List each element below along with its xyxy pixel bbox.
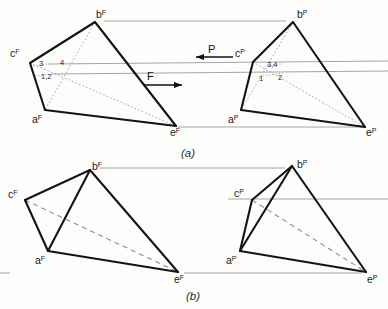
point-label-3-4: 3,4: [267, 60, 277, 69]
edge-c-a: [240, 200, 252, 251]
panel-b-profile-visible-edges: [240, 166, 366, 272]
caption-part-a: (a): [181, 147, 195, 159]
vertex-label-cF: cF: [10, 47, 20, 59]
panel-b-profile-vertex-labels: bP cP aP eP: [226, 158, 378, 285]
point-label-1: 1: [259, 74, 263, 83]
edge-a-e: [240, 251, 366, 272]
edge-a-e: [45, 110, 176, 126]
edge-b-a-hidden: [45, 22, 95, 110]
panel-a-profile-number-labels: 3,4 1 2: [259, 60, 282, 83]
edge-c-b: [25, 170, 90, 200]
projector-line-upper: [48, 61, 388, 64]
vertex-label-aF: aF: [32, 113, 42, 125]
vertex-label-eF: eF: [170, 126, 180, 138]
vertex-label-aP: aP: [226, 254, 237, 266]
vertex-label-cP: cP: [235, 47, 245, 59]
vertex-label-cF: cF: [8, 188, 18, 200]
vertex-label-eP: eP: [366, 126, 377, 138]
force-label-f: F: [147, 70, 154, 82]
edge-c-a: [241, 62, 253, 110]
vertex-label-bP: bP: [297, 158, 308, 170]
vertex-label-aF: aF: [35, 254, 45, 266]
panel-b-front-view: [25, 170, 178, 272]
edge-b-e: [90, 170, 178, 272]
edge-c-a: [25, 200, 48, 251]
vertex-label-bP: bP: [297, 8, 308, 20]
edge-b-a: [240, 166, 292, 251]
panel-b-profile-hidden-edges: [252, 200, 366, 272]
figure-canvas: F P bF cF aF eF 3 4: [0, 0, 388, 309]
panel-b-front-hidden-edges: [25, 200, 178, 272]
panel-b-profile-view: [240, 166, 366, 272]
vertex-label-bF: bF: [96, 8, 106, 20]
force-label-p: P: [208, 43, 215, 55]
point-label-1-2: 1,2: [41, 72, 51, 81]
edge-c-e-hidden: [25, 200, 178, 272]
edge-b-e: [293, 22, 365, 127]
force-arrow-f: [143, 82, 182, 88]
vertex-label-bF: bF: [92, 160, 102, 172]
descriptive-geometry-figure: F P bF cF aF eF 3 4: [0, 0, 388, 309]
edge-b-e: [95, 22, 176, 126]
caption-part-b: (b): [186, 290, 200, 302]
arrow-p-head: [196, 54, 204, 60]
edge-a-e: [48, 251, 178, 272]
edge-a-e: [241, 110, 365, 127]
edge-b-a: [48, 170, 90, 251]
point-label-2: 2: [278, 73, 282, 82]
point-label-3: 3: [39, 59, 43, 68]
edge-c-a: [30, 63, 45, 110]
arrow-f-head: [174, 82, 182, 88]
edge-c-b: [252, 166, 292, 200]
edge-c-e-hidden: [252, 200, 366, 272]
panel-b-front-visible-edges: [25, 170, 178, 272]
vertex-label-cP: cP: [234, 187, 244, 199]
edge-b-e: [292, 166, 366, 272]
vertex-label-eF: eF: [174, 273, 184, 285]
panel-a-projection-lines: [48, 21, 388, 127]
vertex-label-eP: eP: [367, 273, 378, 285]
edge-c-b: [30, 22, 95, 63]
point-label-4: 4: [60, 58, 64, 67]
projector-line-lower: [52, 71, 388, 74]
vertex-label-aP: aP: [228, 113, 239, 125]
panel-a-front-number-labels: 3 4 1,2: [39, 58, 64, 81]
